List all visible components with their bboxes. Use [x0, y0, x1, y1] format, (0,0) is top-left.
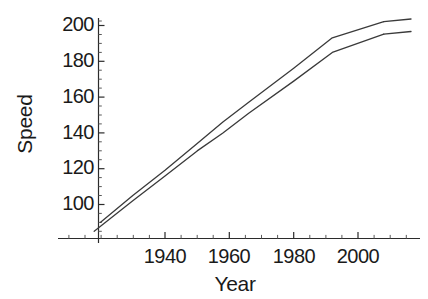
ytick-label-100: 100 — [48, 192, 94, 215]
ytick-label-120: 120 — [48, 156, 94, 179]
y-axis-title: Speed — [13, 79, 37, 169]
xtick-label-1960: 1960 — [199, 245, 259, 268]
series-right-extension — [384, 19, 411, 34]
ytick-label-200: 200 — [48, 13, 94, 36]
ytick-label-140: 140 — [48, 121, 94, 144]
xtick-label-1980: 1980 — [264, 245, 324, 268]
ytick-label-180: 180 — [48, 49, 94, 72]
chart-figure: 200 180 160 140 120 100 1940 1960 1980 2… — [0, 0, 428, 299]
axis-lines — [58, 18, 420, 243]
ytick-label-160: 160 — [48, 85, 94, 108]
series-line-lower — [94, 34, 384, 231]
xtick-label-1940: 1940 — [135, 245, 195, 268]
x-axis-title: Year — [195, 272, 275, 296]
xtick-label-2000: 2000 — [328, 245, 388, 268]
